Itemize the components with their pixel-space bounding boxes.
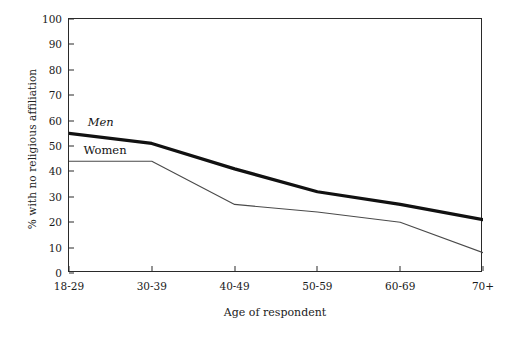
y-tick-mark [69,196,74,197]
x-tick-label: 18-29 [54,280,84,292]
x-tick-mark [483,266,484,271]
y-tick-mark [69,95,74,96]
x-tick-label: 50-59 [302,280,332,292]
x-tick-mark [69,266,70,271]
chart-figure: % with no religious affiliation 01020304… [0,0,514,342]
y-tick-label: 80 [49,64,62,76]
series-lines [69,19,483,273]
x-tick-label: 60-69 [385,280,415,292]
y-tick-mark [69,222,74,223]
y-tick-mark [69,146,74,147]
y-tick-label: 70 [49,89,62,101]
line-men [69,133,483,219]
y-axis-title: % with no religious affiliation [26,13,44,285]
y-tick-mark [69,19,74,20]
series-label-women: Women [83,143,126,157]
series-label-men: Men [88,115,114,129]
y-tick-label: 30 [49,191,62,203]
y-tick-mark [69,171,74,172]
x-tick-label: 40-49 [219,280,249,292]
x-tick-mark [151,266,152,271]
y-tick-label: 20 [49,216,62,228]
y-tick-label: 50 [49,140,62,152]
y-tick-label: 90 [49,38,62,50]
x-tick-mark [317,266,318,271]
y-tick-mark [69,120,74,121]
y-tick-mark [69,44,74,45]
x-tick-mark [234,266,235,271]
x-tick-mark [400,266,401,271]
y-tick-label: 60 [49,115,62,127]
y-tick-label: 100 [42,13,62,25]
x-tick-label: 70+ [472,280,494,292]
y-tick-mark [69,273,74,274]
x-axis-title: Age of respondent [68,306,482,319]
x-tick-label: 30-39 [137,280,167,292]
y-tick-mark [69,247,74,248]
y-tick-mark [69,69,74,70]
y-tick-label: 10 [49,242,62,254]
y-tick-label: 0 [55,267,62,279]
y-tick-label: 40 [49,165,62,177]
plot-area: 010203040506070809010018-2930-3940-4950-… [68,18,482,272]
